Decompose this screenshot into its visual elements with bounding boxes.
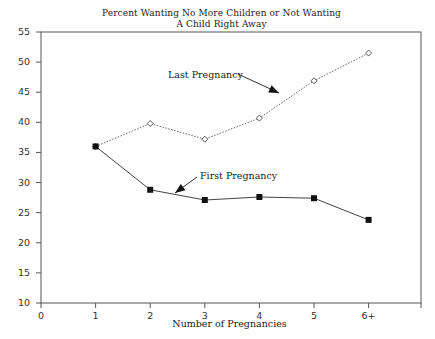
diamond-marker: [256, 115, 262, 121]
y-tick-label: 10: [0, 297, 30, 308]
y-tick-label: 35: [0, 146, 30, 157]
arrow-first-pregnancy-head: [175, 184, 185, 193]
series-line-first-pregnancy: [96, 146, 369, 219]
y-tick-label: 15: [0, 267, 30, 278]
y-tick-label: 45: [0, 86, 30, 97]
square-marker: [93, 143, 99, 149]
diamond-marker: [147, 121, 153, 127]
y-tick-label: 20: [0, 237, 30, 248]
square-marker: [256, 194, 262, 200]
annotation-first-pregnancy: First Pregnancy: [200, 170, 277, 181]
diamond-marker: [366, 50, 372, 56]
arrow-last-pregnancy-head: [268, 85, 279, 93]
y-tick-label: 50: [0, 56, 30, 67]
chart-title-line-2: A Child Right Away: [0, 19, 435, 29]
y-tick-label: 55: [0, 26, 30, 37]
square-marker: [147, 187, 153, 193]
square-marker: [366, 217, 372, 223]
diamond-marker: [311, 78, 317, 84]
square-marker: [202, 197, 208, 203]
y-tick-label: 40: [0, 116, 30, 127]
annotation-last-pregnancy: Last Pregnancy: [168, 69, 243, 80]
y-tick-label: 30: [0, 177, 30, 188]
diamond-marker: [202, 136, 208, 142]
y-tick-label: 25: [0, 207, 30, 218]
chart-title-line-1: Percent Wanting No More Children or Not …: [0, 8, 435, 18]
series-line-last-pregnancy: [96, 53, 369, 146]
x-axis-label: Number of Pregnancies: [0, 318, 435, 329]
square-marker: [311, 195, 317, 201]
